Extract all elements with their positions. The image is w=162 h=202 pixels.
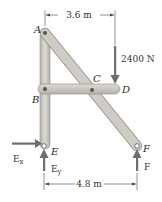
pin-b bbox=[43, 87, 47, 91]
reaction-ex-arrow: Ex bbox=[12, 139, 42, 166]
label-b: B bbox=[31, 94, 39, 105]
pin-e bbox=[42, 144, 47, 149]
reaction-ex-label: Ex bbox=[13, 154, 24, 166]
member-bcd bbox=[38, 84, 120, 94]
label-a: A bbox=[33, 24, 41, 35]
applied-load-label: 2400 N bbox=[121, 54, 155, 64]
label-e: E bbox=[50, 146, 59, 157]
applied-load-arrow: 2400 N bbox=[111, 46, 155, 84]
pin-c bbox=[90, 88, 94, 92]
pin-f bbox=[135, 144, 140, 149]
bottom-dimension-label: 4.8 m bbox=[76, 179, 102, 189]
top-dimension-label: 3.6 m bbox=[66, 10, 92, 20]
reaction-ey-label: Ey bbox=[51, 164, 62, 176]
label-d: D bbox=[121, 84, 130, 95]
label-c: C bbox=[93, 73, 101, 84]
frame-diagram: 3.6 m A B C D E F 2400 N Ex Ey F bbox=[0, 0, 162, 202]
label-f: F bbox=[142, 143, 151, 154]
reaction-f-label: F bbox=[144, 162, 150, 172]
pin-a bbox=[43, 31, 47, 35]
